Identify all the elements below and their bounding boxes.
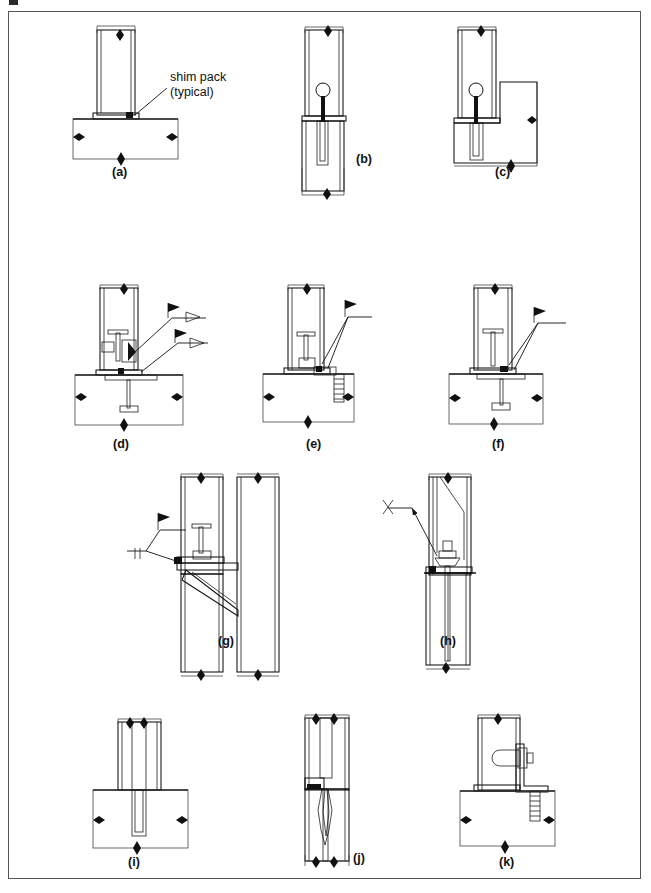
- detail-h: (h): [383, 472, 476, 674]
- caption-h: (h): [440, 634, 456, 648]
- caption-d: (d): [113, 437, 129, 451]
- detail-a: shim pack (typical) (a): [73, 26, 227, 179]
- detail-b: (b): [302, 25, 372, 200]
- caption-c: (c): [495, 165, 510, 179]
- detail-c: (c): [454, 25, 537, 179]
- detail-i: (i): [93, 717, 188, 869]
- engineering-drawing-canvas: shim pack (typical) (a) (b): [0, 0, 651, 893]
- caption-k: (k): [499, 855, 514, 869]
- caption-f: (f): [492, 437, 505, 451]
- caption-b: (b): [356, 152, 372, 166]
- caption-e: (e): [306, 437, 321, 451]
- caption-i: (i): [128, 855, 140, 869]
- caption-j: (j): [353, 851, 365, 865]
- caption-g: (g): [218, 634, 234, 648]
- detail-j: (j): [305, 713, 365, 868]
- shim-pack-note-line1: shim pack: [170, 70, 227, 84]
- detail-e: (e): [263, 283, 372, 451]
- detail-f: (f): [449, 283, 566, 451]
- caption-a: (a): [112, 165, 127, 179]
- detail-k: (k): [460, 713, 555, 869]
- detail-d: (d): [75, 283, 208, 451]
- detail-g: (g): [127, 472, 279, 681]
- shim-pack-note-line2: (typical): [170, 85, 214, 99]
